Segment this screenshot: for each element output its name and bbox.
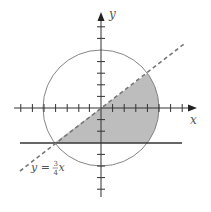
x-axis-arrow-icon [188, 105, 197, 112]
svg-text:3: 3 [54, 160, 58, 168]
dashed-line-equation-label: y = 3 4 x [30, 160, 66, 177]
y-axis-arrow-icon [98, 12, 105, 21]
x-axis-label: x [190, 113, 197, 127]
svg-text:y =: y = [30, 161, 50, 174]
svg-text:x: x [59, 161, 66, 174]
y-axis-label: y [108, 7, 116, 21]
coordinate-diagram: y x y = 3 4 x [0, 0, 211, 212]
